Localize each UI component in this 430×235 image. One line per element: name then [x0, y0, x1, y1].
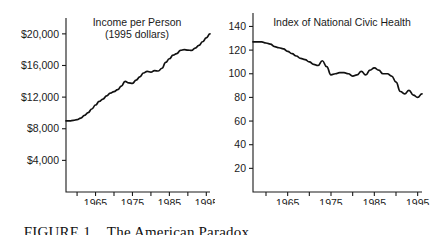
y-tick-label: 20 [234, 162, 246, 174]
x-tick-label: 1975 [121, 197, 145, 205]
figure-caption: FIGURE 1The American Paradox [8, 207, 428, 235]
civic-data-line [253, 42, 422, 98]
income-chart-title: Income per Person [93, 16, 182, 28]
y-tick-label: 80 [234, 91, 246, 103]
y-tick-label: 60 [234, 115, 246, 127]
civic-y-ticks: 20406080100120140 [228, 20, 253, 174]
income-per-person-chart: $4,000$8,000$12,000$16,000$20,000 196519… [0, 0, 215, 205]
y-tick-label: 100 [228, 67, 246, 79]
y-tick-label: $12,000 [21, 91, 59, 103]
income-axis-spines [66, 18, 210, 192]
y-tick-label: 140 [228, 20, 246, 32]
income-data-line [66, 34, 210, 121]
income-axes [66, 18, 210, 192]
x-tick-label: 1985 [363, 197, 387, 205]
figure-container: $4,000$8,000$12,000$16,000$20,000 196519… [0, 0, 430, 235]
figure-caption-label: FIGURE 1 [24, 224, 91, 235]
civic-x-ticks: 1965197519851995 [266, 192, 430, 205]
y-tick-label: $8,000 [27, 122, 59, 134]
civic-axes [253, 13, 422, 192]
income-x-ticks: 1965197519851995 [77, 192, 215, 205]
y-tick-label: $4,000 [27, 154, 59, 166]
chart-panel-income: $4,000$8,000$12,000$16,000$20,000 196519… [0, 0, 215, 205]
x-tick-label: 1995 [195, 197, 215, 205]
income-y-ticks: $4,000$8,000$12,000$16,000$20,000 [21, 28, 66, 167]
x-tick-label: 1985 [158, 197, 182, 205]
x-tick-label: 1965 [276, 197, 300, 205]
x-tick-label: 1975 [319, 197, 343, 205]
x-tick-label: 1995 [406, 197, 430, 205]
y-tick-label: 40 [234, 138, 246, 150]
y-tick-label: $16,000 [21, 59, 59, 71]
x-tick-label: 1965 [84, 197, 108, 205]
civic-health-chart: 20406080100120140 1965197519851995 Index… [215, 0, 430, 205]
y-tick-label: $20,000 [21, 28, 59, 40]
income-chart-subtitle: (1995 dollars) [105, 28, 169, 40]
civic-chart-title: Index of National Civic Health [273, 16, 411, 28]
y-tick-label: 120 [228, 44, 246, 56]
figure-caption-title: The American Paradox [107, 224, 249, 235]
chart-panel-civic-health: 20406080100120140 1965197519851995 Index… [215, 0, 430, 205]
civic-axis-spines [253, 13, 422, 192]
